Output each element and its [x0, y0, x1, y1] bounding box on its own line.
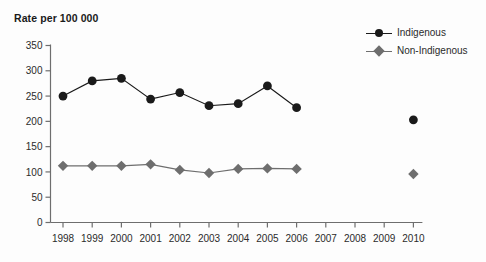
legend-swatch-non-indigenous [366, 44, 392, 58]
data-point-diamond [145, 159, 155, 169]
x-tick-label: 2010 [402, 233, 425, 244]
legend-swatch-indigenous [366, 26, 392, 40]
x-tick-label: 2006 [285, 233, 308, 244]
y-tick-label: 150 [26, 141, 43, 152]
legend-diamond-marker-icon [373, 45, 384, 56]
y-tick-label: 100 [26, 167, 43, 178]
data-point-diamond [233, 164, 243, 174]
chart-legend: Indigenous Non-Indigenous [366, 24, 468, 60]
data-point-diamond [175, 165, 185, 175]
x-tick-label: 2004 [227, 233, 250, 244]
data-point-circle [205, 101, 214, 110]
data-point-circle [234, 99, 243, 108]
x-axis-ticks: 1998199920002001200220032004200520062007… [52, 223, 425, 244]
data-point-circle [292, 103, 301, 112]
legend-label-indigenous: Indigenous [397, 28, 446, 38]
axes [51, 45, 423, 223]
legend-circle-marker-icon [375, 29, 383, 37]
data-point-circle [117, 74, 126, 83]
data-point-diamond [204, 168, 214, 178]
x-tick-label: 1999 [81, 233, 104, 244]
data-point-circle [88, 77, 97, 86]
y-tick-label: 50 [31, 192, 43, 203]
legend-item-indigenous: Indigenous [366, 24, 468, 42]
legend-label-non-indigenous: Non-Indigenous [397, 46, 468, 56]
x-tick-label: 2003 [198, 233, 221, 244]
y-tick-label: 250 [26, 91, 43, 102]
y-axis-ticks: 050100150200250300350 [26, 40, 51, 228]
y-tick-label: 0 [37, 217, 43, 228]
x-tick-label: 2005 [256, 233, 279, 244]
data-point-diamond [87, 161, 97, 171]
x-tick-label: 2007 [315, 233, 338, 244]
data-point-circle [175, 88, 184, 97]
y-tick-label: 300 [26, 65, 43, 76]
y-tick-label: 350 [26, 40, 43, 51]
series-indigenous [59, 74, 418, 124]
x-tick-label: 2002 [169, 233, 192, 244]
data-point-circle [59, 92, 68, 101]
x-tick-label: 2001 [139, 233, 162, 244]
data-point-circle [146, 95, 155, 104]
x-tick-label: 1998 [52, 233, 75, 244]
data-point-circle [409, 115, 418, 124]
series-non-indigenous [58, 159, 419, 179]
data-point-circle [263, 82, 272, 91]
data-point-diamond [58, 161, 68, 171]
x-tick-label: 2009 [373, 233, 396, 244]
data-point-diamond [262, 163, 272, 173]
data-point-diamond [408, 169, 418, 179]
x-tick-label: 2008 [344, 233, 367, 244]
data-point-diamond [116, 161, 126, 171]
y-tick-label: 200 [26, 116, 43, 127]
legend-item-non-indigenous: Non-Indigenous [366, 42, 468, 60]
x-tick-label: 2000 [110, 233, 133, 244]
data-point-diamond [291, 164, 301, 174]
chart-container: Rate per 100 000 05010015020025030035019… [0, 0, 486, 262]
